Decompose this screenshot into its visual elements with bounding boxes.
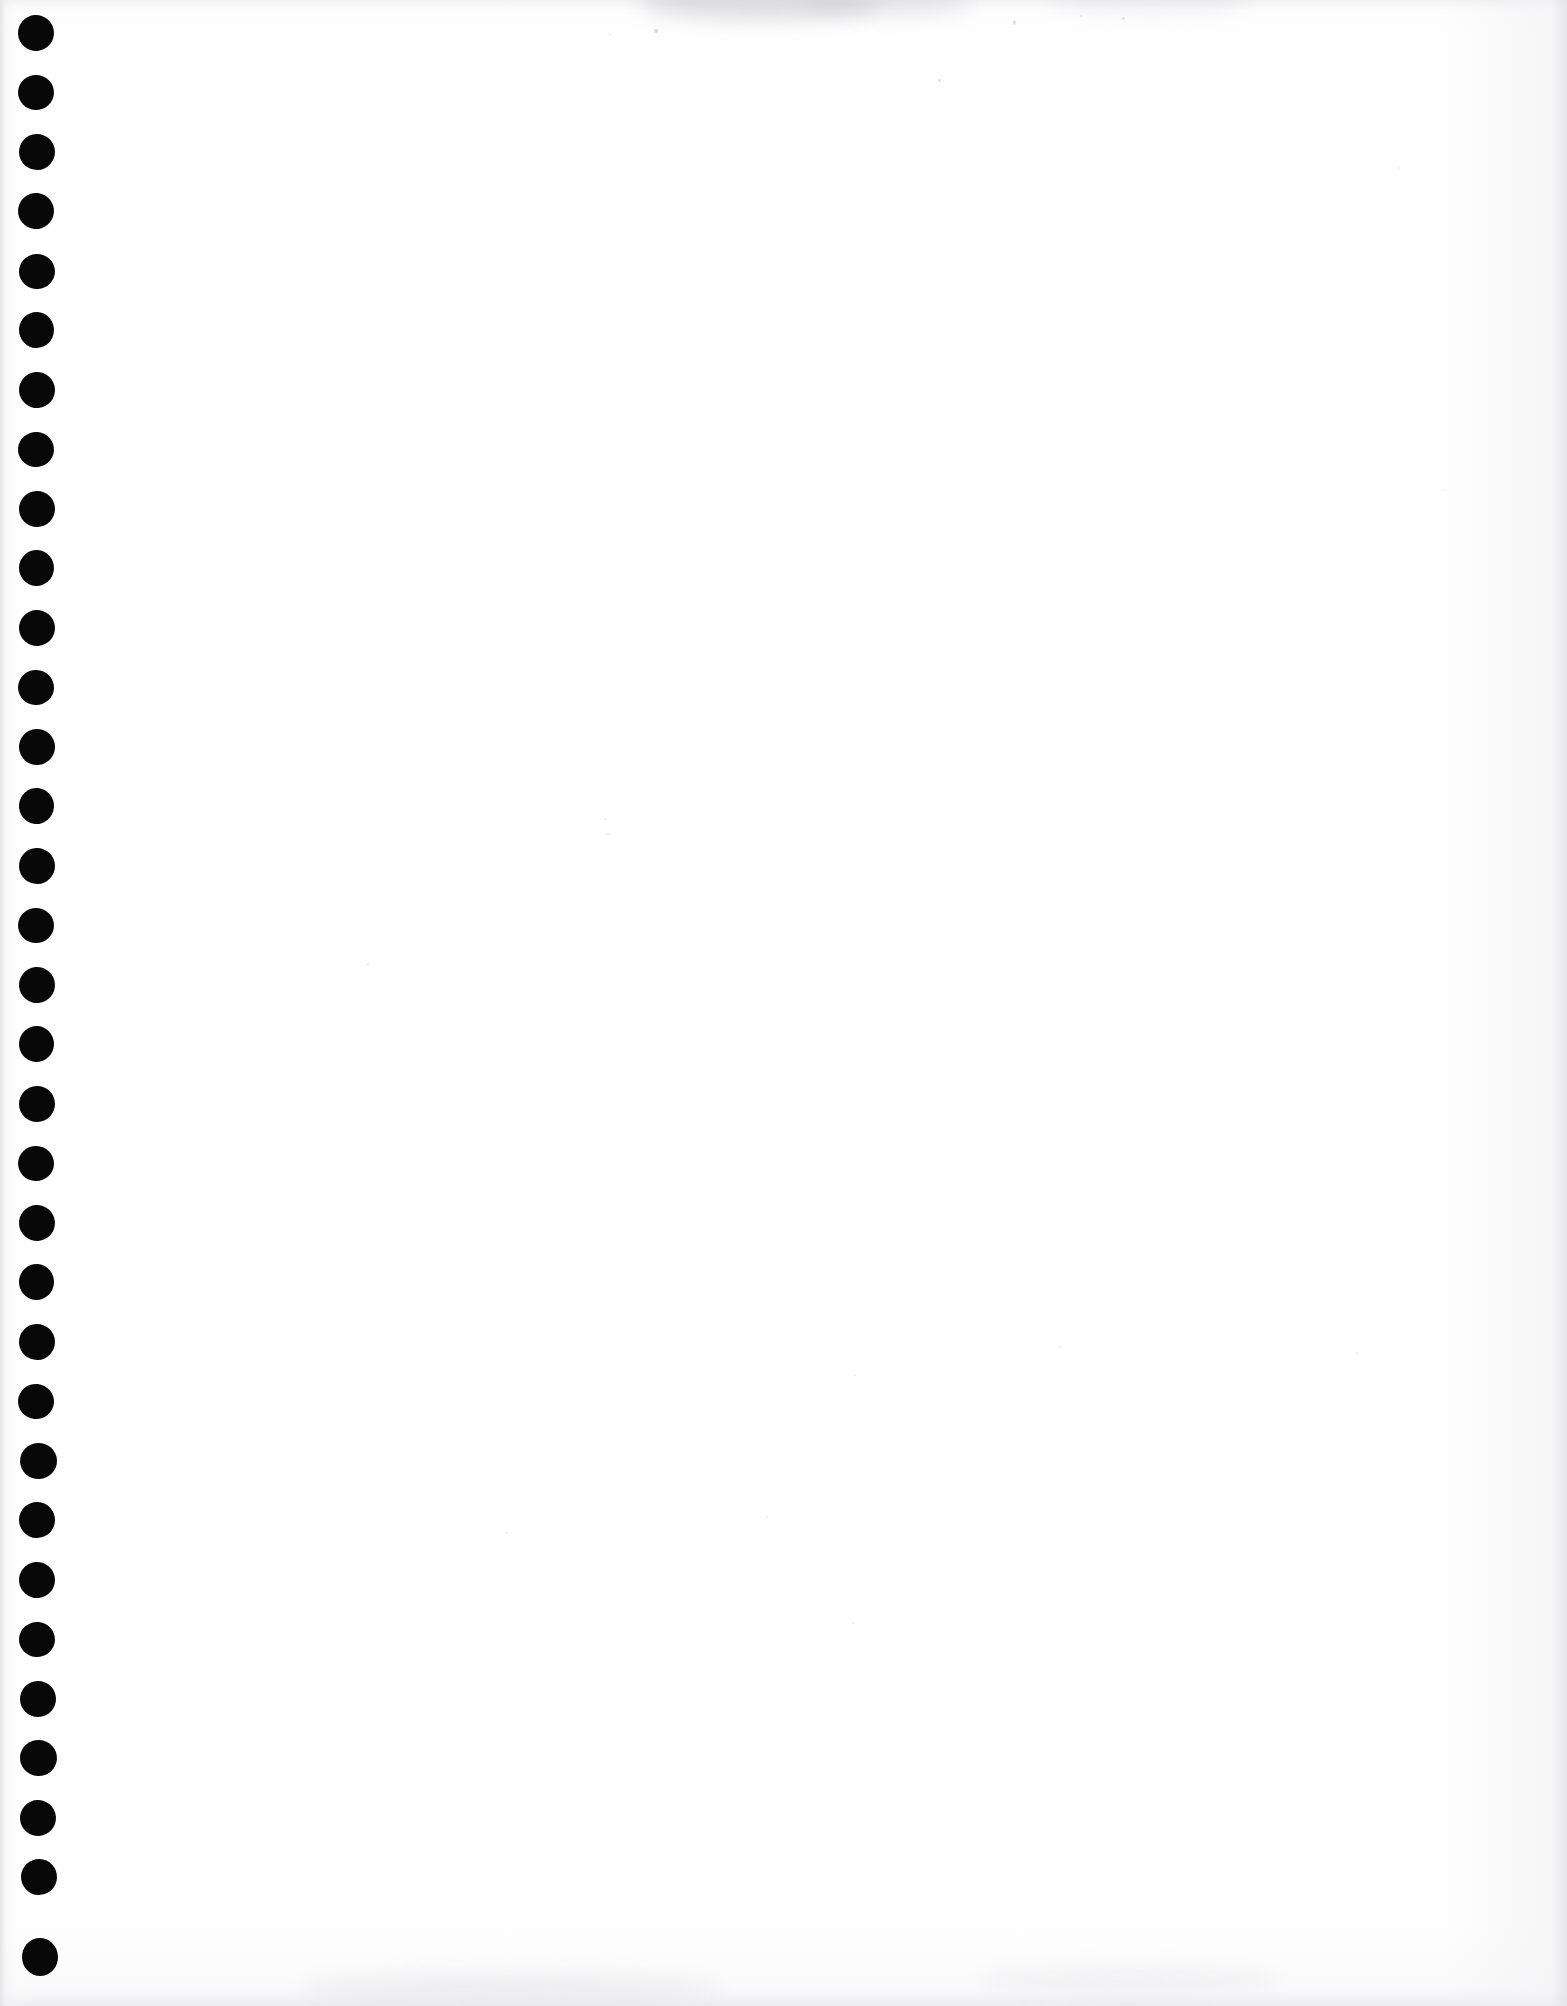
binding-punch-hole [18, 311, 54, 348]
binding-punch-hole [17, 370, 56, 409]
binding-punch-hole [17, 907, 55, 944]
binding-punch-hole [17, 787, 55, 826]
binding-punch-hole [17, 1145, 54, 1181]
binding-punch-hole [17, 74, 55, 111]
binding-punch-hole [16, 191, 55, 230]
binding-punch-hole [17, 669, 54, 705]
binding-punch-hole [17, 430, 55, 467]
paper-sheet [0, 0, 1567, 2006]
binding-punch-hole [17, 965, 56, 1004]
binding-punch-hole [18, 133, 55, 170]
binding-punch-hole [19, 491, 56, 528]
binding-punch-hole [18, 609, 56, 647]
binding-punch-hole [17, 1560, 56, 1599]
binding-punch-hole [18, 847, 55, 884]
binding-punch-hole [19, 1442, 58, 1480]
binding-punch-hole [17, 1025, 54, 1063]
binding-punch-hole [17, 14, 55, 52]
binding-punch-hole [18, 253, 56, 290]
binding-punch-hole [19, 1739, 58, 1777]
binding-punch-hole [21, 1937, 59, 1977]
binding-punch-hole [18, 1501, 55, 1538]
binding-punch-hole [18, 1620, 56, 1657]
binding-punch-hole [18, 728, 56, 766]
binding-punch-hole [18, 1323, 55, 1360]
binding-punch-hole [18, 1263, 55, 1301]
binding-punch-hole [17, 1382, 56, 1420]
scanned-page [0, 0, 1567, 2006]
binding-punch-hole [20, 1858, 57, 1895]
binding-punch-hole [18, 549, 55, 587]
binding-punch-hole [20, 1681, 57, 1718]
spiral-binding-hole-column [0, 0, 90, 2006]
binding-punch-hole [18, 1204, 56, 1242]
binding-punch-hole [19, 1799, 57, 1837]
binding-punch-hole [19, 1086, 56, 1123]
